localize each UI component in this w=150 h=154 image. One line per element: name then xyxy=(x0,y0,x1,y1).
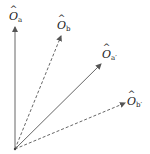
label-o-a: ^Oa xyxy=(9,11,22,24)
label-o-b: ^Ob xyxy=(57,20,71,33)
subscript: b′ xyxy=(136,101,142,109)
label-o-b-prime: ^Ob′ xyxy=(127,96,142,109)
vector-o-b-prime-arrow xyxy=(15,103,125,149)
hat-symbol: ^ xyxy=(103,43,111,52)
vector-o-a-prime-arrow xyxy=(15,64,101,149)
subscript: a′ xyxy=(111,54,117,62)
hat-symbol: ^ xyxy=(128,90,136,99)
hat-symbol: ^ xyxy=(58,14,66,23)
vector-diagram xyxy=(0,0,150,154)
origin-point xyxy=(14,148,16,150)
subscript: a xyxy=(18,16,22,24)
subscript: b xyxy=(66,25,70,33)
label-o-a-prime: ^Oa′ xyxy=(102,49,117,62)
hat-symbol: ^ xyxy=(10,5,18,14)
vector-o-b-arrow xyxy=(15,36,61,149)
